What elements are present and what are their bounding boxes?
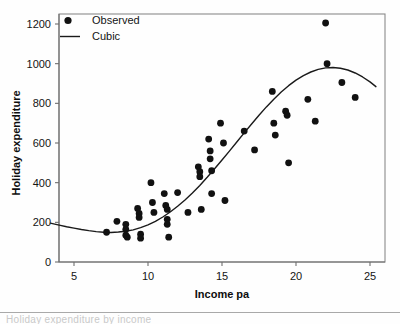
- data-point: [114, 218, 121, 225]
- data-point: [338, 79, 345, 86]
- data-point: [205, 136, 212, 143]
- data-point: [208, 167, 215, 174]
- y-tick-label: 0: [45, 256, 51, 268]
- data-point: [208, 190, 215, 197]
- y-tick-label: 1200: [27, 18, 51, 30]
- figure-panel: 020040060080010001200 510152025 Observed…: [0, 0, 400, 324]
- data-point: [241, 128, 248, 135]
- y-tick-label: 800: [33, 97, 51, 109]
- data-point: [352, 94, 359, 101]
- figure-caption-fragment: Holiday expenditure by income: [6, 314, 151, 324]
- y-tick-label: 400: [33, 177, 51, 189]
- data-point: [270, 120, 277, 127]
- data-point: [312, 118, 319, 125]
- x-tick-label: 5: [71, 270, 77, 282]
- data-point: [285, 159, 292, 166]
- data-point: [220, 140, 227, 147]
- page-divider-rule: [0, 312, 400, 313]
- x-tick-label: 15: [216, 270, 228, 282]
- data-point: [322, 20, 329, 27]
- data-point: [284, 112, 291, 119]
- data-point: [136, 214, 143, 221]
- data-point: [222, 197, 229, 204]
- data-point: [161, 190, 168, 197]
- data-point: [165, 234, 172, 241]
- data-point: [164, 206, 171, 213]
- data-point: [137, 235, 144, 242]
- legend-marker-observed: [64, 17, 71, 24]
- data-point: [272, 132, 279, 139]
- y-tick-label: 1000: [27, 58, 51, 70]
- data-point: [324, 60, 331, 67]
- y-tick-label: 600: [33, 137, 51, 149]
- data-point: [164, 221, 171, 228]
- data-point: [207, 155, 214, 162]
- y-tick-label: 200: [33, 216, 51, 228]
- data-point: [149, 199, 156, 206]
- data-point: [103, 229, 110, 236]
- plot-frame: [59, 14, 385, 262]
- data-point: [185, 209, 192, 216]
- x-tick-label: 10: [142, 270, 154, 282]
- data-point: [122, 226, 129, 233]
- data-point: [124, 234, 131, 241]
- x-axis-title: Income pa: [195, 288, 250, 300]
- data-point: [151, 209, 158, 216]
- data-point: [148, 179, 155, 186]
- scatter-plot: 020040060080010001200 510152025 Observed…: [0, 0, 400, 300]
- data-point: [217, 120, 224, 127]
- data-point: [269, 88, 276, 95]
- legend-label: Observed: [92, 14, 140, 26]
- data-point: [174, 189, 181, 196]
- data-point: [198, 206, 205, 213]
- data-point: [251, 147, 258, 154]
- legend-label: Cubic: [92, 30, 121, 42]
- y-axis-title: Holiday expenditure: [10, 90, 22, 195]
- data-point: [304, 96, 311, 103]
- chart-legend: ObservedCubic: [60, 14, 140, 42]
- x-axis-ticks: 510152025: [71, 262, 376, 282]
- data-point: [207, 148, 214, 155]
- x-tick-label: 20: [290, 270, 302, 282]
- observed-points: [103, 20, 358, 242]
- y-axis-ticks: 020040060080010001200: [27, 18, 59, 268]
- x-tick-label: 25: [364, 270, 376, 282]
- data-point: [196, 173, 203, 180]
